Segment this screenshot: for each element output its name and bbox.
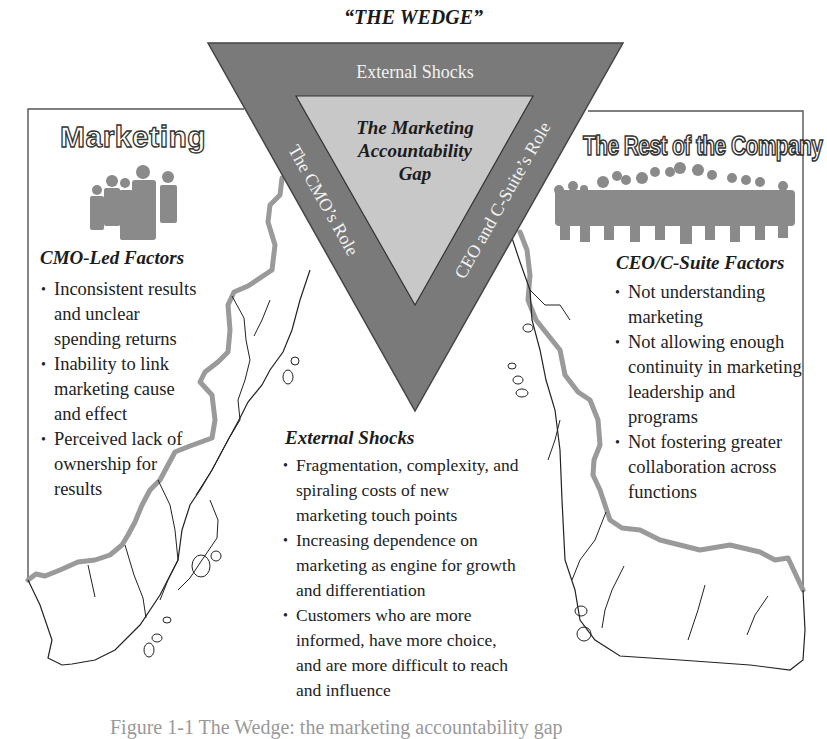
- external-shocks-list: Fragmentation, complexity, and spiraling…: [282, 453, 522, 703]
- list-item: Customers who are more informed, have mo…: [282, 603, 522, 703]
- list-item: Not fostering greater collaboration acro…: [614, 430, 804, 505]
- cmo-factors-heading: CMO-Led Factors: [40, 247, 184, 269]
- list-item: Not understanding marketing: [614, 280, 804, 330]
- wedge-top-label: External Shocks: [340, 62, 490, 83]
- list-item: Inconsistent results and unclear spendin…: [40, 277, 200, 352]
- ceo-factors-heading: CEO/C-Suite Factors: [616, 252, 784, 274]
- left-land-line: [88, 565, 95, 597]
- list-item: Increasing dependence on marketing as en…: [282, 528, 522, 603]
- figure-caption: Figure 1-1 The Wedge: the marketing acco…: [110, 716, 563, 739]
- people-group-icon: [90, 165, 177, 240]
- right-land-line: [747, 596, 768, 635]
- left-land-line: [254, 300, 270, 336]
- gap-title-line: Accountability: [335, 139, 495, 162]
- cmo-factors-list: Inconsistent results and unclear spendin…: [40, 277, 200, 502]
- left-land-line: [196, 296, 250, 495]
- list-item: Fragmentation, complexity, and spiraling…: [282, 453, 522, 528]
- list-item: Inability to link marketing cause and ef…: [40, 352, 200, 427]
- left-land-line: [125, 545, 146, 618]
- ceo-factors-list: Not understanding marketing Not allowing…: [614, 280, 804, 505]
- gap-title-line: The Marketing: [335, 116, 495, 139]
- accountability-gap-title: The Marketing Accountability Gap: [335, 116, 495, 185]
- diagram-title: “THE WEDGE”: [0, 6, 827, 29]
- right-land-line: [688, 585, 705, 640]
- list-item: Not allowing enough continuity in market…: [614, 330, 804, 430]
- right-land-line: [572, 512, 606, 580]
- rest-of-company-title: The Rest of the Company: [583, 130, 822, 161]
- crowd-icon: [554, 162, 795, 244]
- marketing-title: Marketing: [60, 120, 206, 154]
- list-item: Perceived lack of ownership for results: [40, 427, 200, 502]
- right-land-line: [602, 566, 624, 628]
- gap-title-line: Gap: [335, 162, 495, 185]
- external-shocks-heading: External Shocks: [285, 427, 414, 449]
